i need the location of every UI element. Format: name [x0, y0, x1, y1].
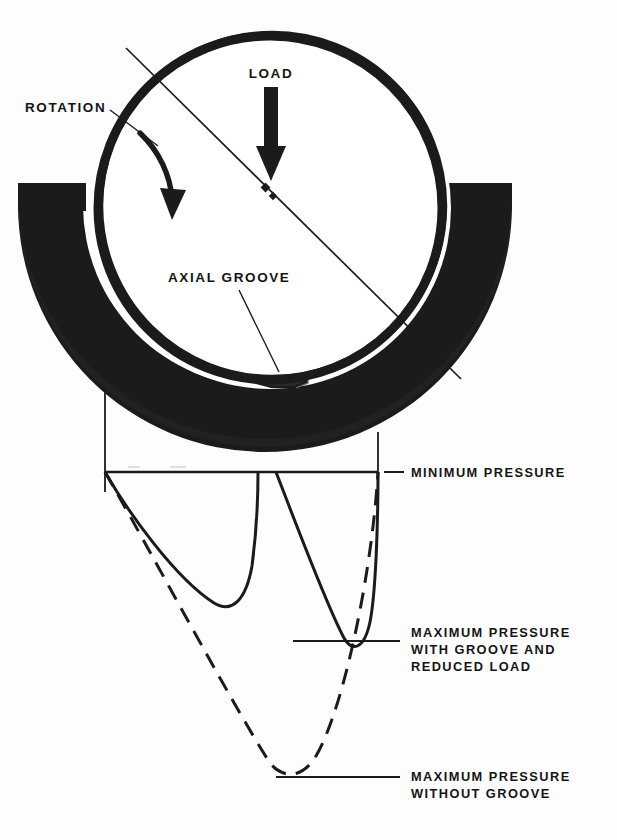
pressure-curve-with-groove-left	[105, 472, 258, 607]
load-label: LOAD	[249, 66, 294, 81]
rotation-label: ROTATION	[25, 100, 106, 115]
pressure-diagram	[105, 467, 404, 777]
journal-shaft-circle-icon	[98, 34, 444, 380]
maximum-pressure-without-groove-line1: MAXIMUM PRESSURE	[411, 769, 571, 784]
bearing-shoulder-right	[444, 183, 512, 211]
maximum-pressure-without-groove-line2: WITHOUT GROOVE	[411, 786, 551, 801]
maximum-pressure-with-groove-line1: MAXIMUM PRESSURE	[411, 625, 571, 640]
maximum-pressure-without-groove-label: MAXIMUM PRESSURE WITHOUT GROOVE	[411, 769, 571, 801]
maximum-pressure-with-groove-label: MAXIMUM PRESSURE WITH GROOVE AND REDUCED…	[411, 625, 571, 674]
minimum-pressure-label: MINIMUM PRESSURE	[411, 465, 566, 480]
bearing-shoulder-left	[18, 183, 86, 211]
maximum-pressure-with-groove-line3: REDUCED LOAD	[411, 659, 532, 674]
axial-groove-label: AXIAL GROOVE	[168, 270, 290, 285]
bearing-pressure-figure: LOAD ROTATION AXIAL GROOVE	[0, 0, 617, 840]
figure-canvas: LOAD ROTATION AXIAL GROOVE	[0, 0, 617, 840]
maximum-pressure-with-groove-line2: WITH GROOVE AND	[411, 642, 556, 657]
pressure-curve-with-groove-right	[276, 472, 378, 646]
